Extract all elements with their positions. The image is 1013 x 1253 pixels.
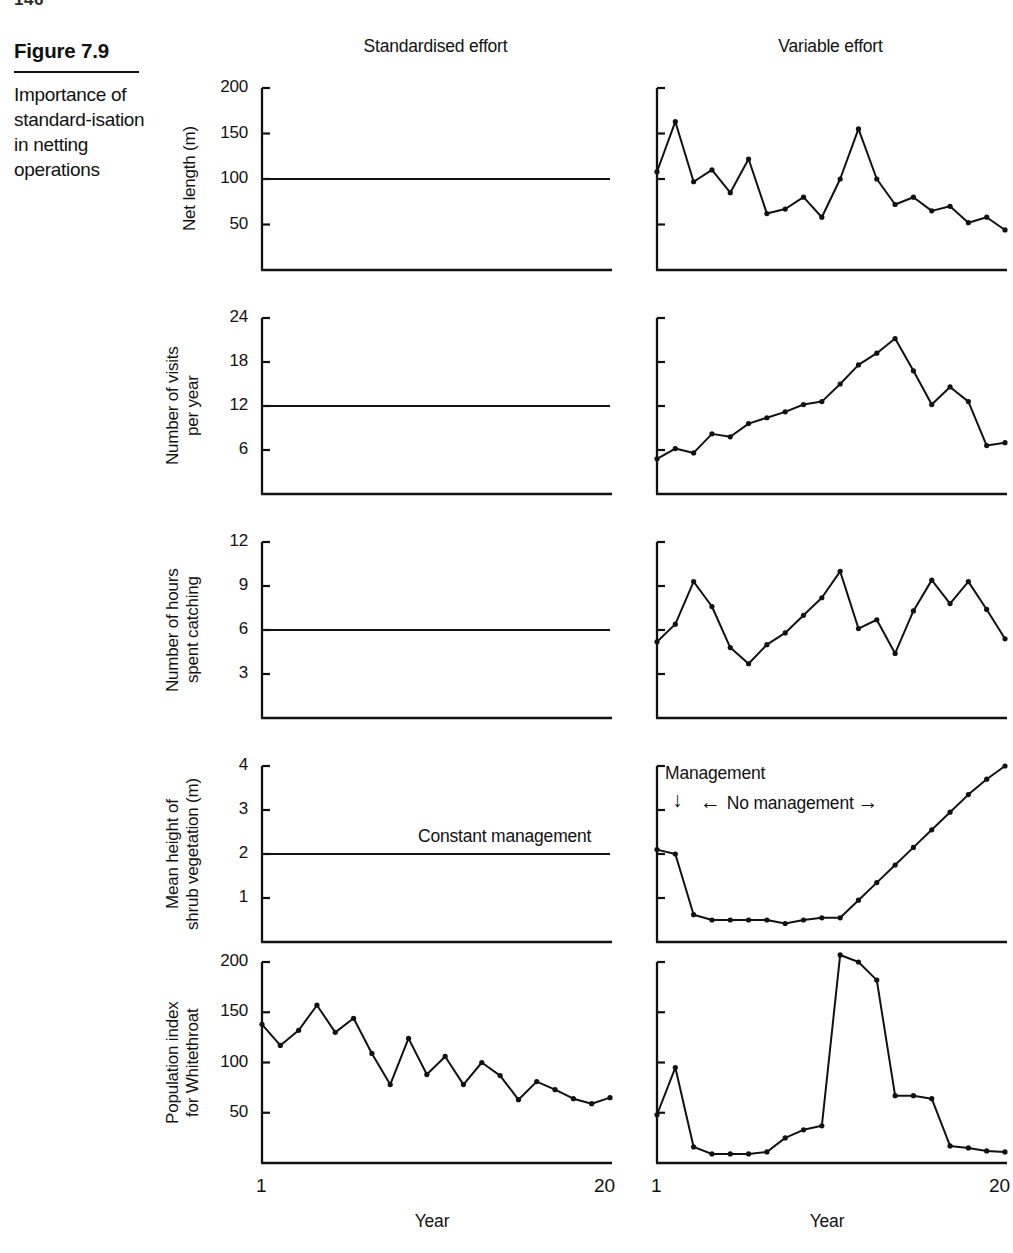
chart-grid: Net length (m)50100150200Number of visit… — [0, 0, 1013, 1253]
y-tick-label-visits-per-year-12: 12 — [192, 395, 248, 415]
data-point — [819, 399, 824, 404]
data-point — [1002, 636, 1007, 641]
data-series-hours-catching-1 — [657, 571, 1005, 663]
data-point — [801, 195, 806, 200]
y-tick-label-visits-per-year-6: 6 — [192, 439, 248, 459]
data-point — [838, 915, 843, 920]
data-point — [947, 601, 952, 606]
data-point — [728, 645, 733, 650]
chart-panel-visits-per-year-variable — [653, 312, 1011, 504]
chart-panel-hours-catching-variable — [653, 536, 1011, 728]
x-axis-title-0: Year — [258, 1211, 606, 1232]
data-point — [929, 1096, 934, 1101]
data-point — [911, 195, 916, 200]
data-point — [691, 1144, 696, 1149]
data-point — [709, 604, 714, 609]
data-point — [929, 578, 934, 583]
x-tick-label-last-1: 20 — [989, 1175, 1010, 1197]
data-point — [461, 1082, 466, 1087]
plot-area-visits-per-year-0 — [258, 312, 616, 504]
x-tick-label-last-0: 20 — [594, 1175, 615, 1197]
data-point — [819, 1123, 824, 1128]
annotation-management: Management — [665, 763, 765, 784]
data-point — [838, 952, 843, 957]
chart-panel-net-length-standardised — [258, 82, 616, 280]
data-point — [911, 368, 916, 373]
data-point — [984, 215, 989, 220]
annotation-no-management: ←No management→ — [700, 790, 878, 814]
data-point — [911, 845, 916, 850]
y-tick-label-hours-catching-9: 9 — [192, 575, 248, 595]
data-point — [856, 959, 861, 964]
data-point — [673, 1065, 678, 1070]
data-point — [856, 362, 861, 367]
data-point — [856, 126, 861, 131]
x-tick-label-first-1: 1 — [651, 1175, 662, 1197]
data-point — [947, 384, 952, 389]
data-point — [1002, 440, 1007, 445]
data-point — [654, 1112, 659, 1117]
no-management-label: No management — [727, 793, 854, 813]
data-point — [728, 190, 733, 195]
data-point — [406, 1036, 411, 1041]
data-series-visits-per-year-1 — [657, 339, 1005, 459]
data-point — [764, 1149, 769, 1154]
y-tick-label-net-length-100: 100 — [192, 168, 248, 188]
data-point — [819, 595, 824, 600]
data-point — [893, 336, 898, 341]
data-point — [691, 912, 696, 917]
data-series-net-length-1 — [657, 122, 1005, 230]
x-tick-label-first-0: 1 — [256, 1175, 267, 1197]
data-point — [893, 1093, 898, 1098]
data-point — [874, 617, 879, 622]
data-point — [783, 206, 788, 211]
y-tick-label-hours-catching-6: 6 — [192, 619, 248, 639]
data-series-whitethroat-index-1 — [657, 955, 1005, 1154]
data-point — [314, 1003, 319, 1008]
data-point — [947, 204, 952, 209]
data-point — [801, 613, 806, 618]
y-tick-label-net-length-50: 50 — [192, 214, 248, 234]
data-point — [333, 1030, 338, 1035]
data-point — [856, 898, 861, 903]
data-point — [984, 777, 989, 782]
data-point — [874, 880, 879, 885]
data-point — [571, 1096, 576, 1101]
chart-panel-hours-catching-standardised — [258, 536, 616, 728]
data-point — [893, 202, 898, 207]
data-point — [673, 119, 678, 124]
y-tick-label-shrub-height-2: 2 — [192, 843, 248, 863]
data-point — [552, 1087, 557, 1092]
data-point — [691, 450, 696, 455]
chart-panel-whitethroat-index-variable — [653, 956, 1011, 1173]
data-point — [911, 608, 916, 613]
data-point — [691, 179, 696, 184]
y-tick-label-whitethroat-index-100: 100 — [192, 1052, 248, 1072]
y-tick-label-net-length-200: 200 — [192, 77, 248, 97]
chart-panel-shrub-height-variable — [653, 760, 1011, 952]
data-point — [709, 167, 714, 172]
data-point — [874, 351, 879, 356]
y-tick-label-hours-catching-3: 3 — [192, 663, 248, 683]
data-point — [764, 211, 769, 216]
data-point — [874, 977, 879, 982]
left-arrow-icon: ← — [700, 790, 721, 813]
data-point — [893, 862, 898, 867]
y-tick-label-shrub-height-4: 4 — [192, 755, 248, 775]
y-tick-label-net-length-150: 150 — [192, 123, 248, 143]
data-point — [838, 176, 843, 181]
chart-panel-shrub-height-standardised — [258, 760, 616, 952]
data-point — [516, 1097, 521, 1102]
y-tick-label-whitethroat-index-50: 50 — [192, 1102, 248, 1122]
data-point — [801, 917, 806, 922]
data-point — [673, 851, 678, 856]
data-point — [911, 1093, 916, 1098]
data-point — [498, 1073, 503, 1078]
data-point — [984, 443, 989, 448]
data-point — [278, 1043, 283, 1048]
data-point — [607, 1095, 612, 1100]
data-point — [819, 215, 824, 220]
data-point — [929, 208, 934, 213]
plot-area-shrub-height-0 — [258, 760, 616, 952]
annotation-constant-management: Constant management — [418, 826, 591, 847]
